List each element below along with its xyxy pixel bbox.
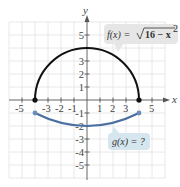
svg-text:-5: -5 bbox=[15, 103, 24, 114]
svg-text:1: 1 bbox=[79, 82, 84, 93]
g-callout: g(x) = ? bbox=[108, 126, 150, 150]
f-callout-prefix: f(x) = bbox=[107, 29, 130, 41]
svg-text:-5: -5 bbox=[75, 160, 84, 171]
f-endpoint-left bbox=[32, 97, 37, 102]
y-axis-label: y bbox=[82, 4, 88, 16]
svg-text:-3: -3 bbox=[42, 103, 51, 114]
svg-text:3: 3 bbox=[79, 56, 84, 67]
y-tick-labels: 5 3 2 1 -1 -2 -3 -4 -5 bbox=[75, 30, 84, 171]
svg-text:3: 3 bbox=[123, 103, 128, 114]
x-axis-arrow-icon bbox=[163, 98, 170, 103]
x-axis-label: x bbox=[171, 93, 177, 105]
svg-text:-3: -3 bbox=[75, 134, 84, 145]
svg-text:-4: -4 bbox=[75, 147, 84, 158]
y-axis-arrow-icon bbox=[85, 15, 90, 22]
svg-text:-1: -1 bbox=[75, 108, 84, 119]
f-endpoint-right bbox=[136, 97, 141, 102]
svg-text:1: 1 bbox=[97, 103, 102, 114]
svg-text:2: 2 bbox=[79, 69, 84, 80]
svg-text:5: 5 bbox=[79, 30, 84, 41]
function-graph: y x -5 -3 -2 -1 1 2 3 5 5 3 2 1 -1 -2 -3… bbox=[0, 0, 180, 187]
svg-text:5: 5 bbox=[149, 103, 154, 114]
g-endpoint-left bbox=[33, 111, 38, 116]
f-callout-exponent: 2 bbox=[173, 23, 178, 34]
f-callout-radicand: 16 − x bbox=[145, 29, 171, 40]
svg-text:-2: -2 bbox=[55, 103, 64, 114]
g-callout-text: g(x) = ? bbox=[112, 136, 145, 148]
g-endpoint-right bbox=[137, 111, 142, 116]
svg-text:2: 2 bbox=[110, 103, 115, 114]
